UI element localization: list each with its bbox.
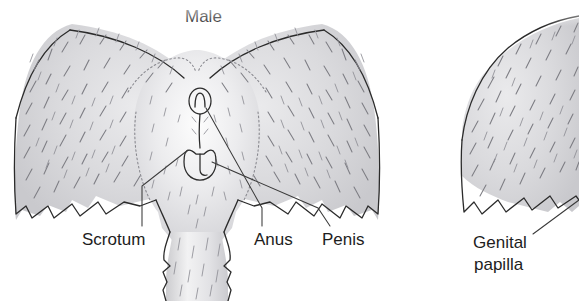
top-fade-overlay [0,0,579,26]
label-genital-papilla-line2: papilla [474,255,524,274]
label-anus: Anus [254,230,293,249]
anatomy-illustration: Male Scrotum Anus Penis [0,0,579,301]
label-penis: Penis [322,230,365,249]
label-scrotum: Scrotum [82,230,145,249]
label-genital-papilla-line1: Genital [473,233,527,252]
anatomy-figure: Male Scrotum Anus Penis [0,0,579,301]
